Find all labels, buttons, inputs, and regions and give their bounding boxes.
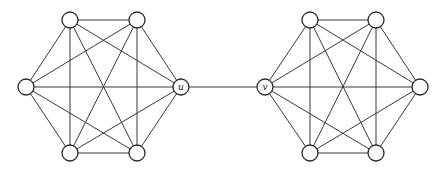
node-circle [412,79,428,95]
node-circle [302,145,318,161]
node-a1 [62,12,78,28]
node-circle [302,12,318,28]
node-a2 [129,12,145,28]
node-circle [62,145,78,161]
node-circle [368,145,384,161]
node-v: v [257,79,273,95]
edge-v-b5 [265,87,310,153]
node-b2 [368,12,384,28]
node-a5 [62,145,78,161]
node-a3 [18,79,34,95]
node-circle [368,12,384,28]
node-b4 [412,79,428,95]
edge-u-a6 [137,87,181,153]
node-circle [129,12,145,28]
node-a6 [129,145,145,161]
node-b5 [302,145,318,161]
edge-a2-u [137,20,181,87]
graph-diagram: uv [0,0,447,172]
edge-a3-a5 [26,87,70,153]
node-u: u [173,79,189,95]
edge-a1-a3 [26,20,70,87]
node-b6 [368,145,384,161]
edge-b1-v [265,20,310,87]
node-circle [62,12,78,28]
edge-b2-b4 [376,20,420,87]
node-label: v [262,82,267,92]
node-b1 [302,12,318,28]
node-circle [129,145,145,161]
edges-layer [26,20,420,153]
edge-b4-b6 [376,87,420,153]
node-circle [18,79,34,95]
node-label: u [178,82,184,92]
